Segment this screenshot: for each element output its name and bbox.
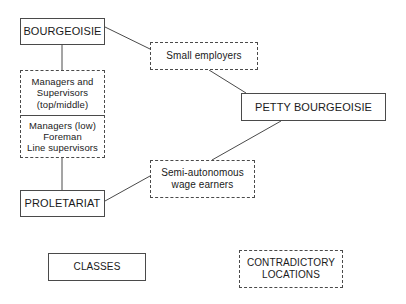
node-proletariat[interactable]: PROLETARIAT <box>20 190 105 217</box>
connector-proletariat-to-semi-autonomous <box>105 176 150 201</box>
legend-contradictory-line-2: LOCATIONS <box>262 269 320 281</box>
node-semi-autonomous-wage-earners[interactable]: Semi-autonomous wage earners <box>150 160 255 198</box>
managers-top-line-1: Managers and <box>32 76 94 87</box>
legend-classes: CLASSES <box>48 253 146 281</box>
managers-low-line-1: Managers (low) <box>29 120 96 131</box>
managers-low-line-3: Line supervisors <box>27 142 98 153</box>
legend-classes-label: CLASSES <box>74 261 121 273</box>
managers-low-line-2: Foreman <box>43 131 82 142</box>
connector-petty-bourgeoisie-to-semi-autonomous <box>212 121 281 160</box>
node-bourgeoisie-label: BOURGEOISIE <box>23 25 101 38</box>
managers-top-line-3: (top/middle) <box>37 99 88 110</box>
node-bourgeoisie[interactable]: BOURGEOISIE <box>20 18 105 45</box>
node-petty-bourgeoisie-label: PETTY BOURGEOISIE <box>255 101 372 114</box>
connector-bourgeoisie-to-small-employers <box>105 27 150 49</box>
legend-contradictory-locations: CONTRADICTORY LOCATIONS <box>239 250 343 288</box>
legend-contradictory-line-1: CONTRADICTORY <box>247 257 335 269</box>
node-managers-top-middle[interactable]: Managers and Supervisors (top/middle) <box>21 71 104 116</box>
semi-autonomous-line-1: Semi-autonomous <box>161 167 244 179</box>
semi-autonomous-line-2: wage earners <box>172 179 234 191</box>
node-managers-supervisors-stack[interactable]: Managers and Supervisors (top/middle) Ma… <box>20 70 105 158</box>
node-managers-low[interactable]: Managers (low) Foreman Line supervisors <box>21 116 104 157</box>
managers-top-line-2: Supervisors <box>37 87 88 98</box>
node-proletariat-label: PROLETARIAT <box>25 197 101 210</box>
node-petty-bourgeoisie[interactable]: PETTY BOURGEOISIE <box>241 93 386 121</box>
node-small-employers-label: Small employers <box>166 50 241 62</box>
node-small-employers[interactable]: Small employers <box>150 42 258 70</box>
class-structure-diagram: BOURGEOISIE Managers and Supervisors (to… <box>0 0 406 304</box>
connector-small-employers-to-petty-bourgeoisie <box>209 70 246 93</box>
